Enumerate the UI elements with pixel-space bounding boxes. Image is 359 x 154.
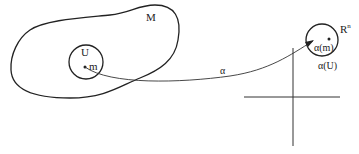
diagram-canvas xyxy=(0,0,359,154)
manifold-label: M xyxy=(146,12,156,23)
open-set-label: U xyxy=(81,47,89,58)
point-label: m xyxy=(89,61,98,72)
image-point-label: α(m) xyxy=(314,43,334,53)
image-point-dot xyxy=(328,38,331,41)
map-label: α xyxy=(220,66,225,76)
map-alpha-curve xyxy=(85,41,313,81)
target-space-exponent: n xyxy=(347,22,351,30)
image-set-label: α(U) xyxy=(318,61,337,71)
chart-diagram: M U m α Rn α(m) α(U) xyxy=(0,0,359,154)
target-space-label: Rn xyxy=(340,24,351,35)
